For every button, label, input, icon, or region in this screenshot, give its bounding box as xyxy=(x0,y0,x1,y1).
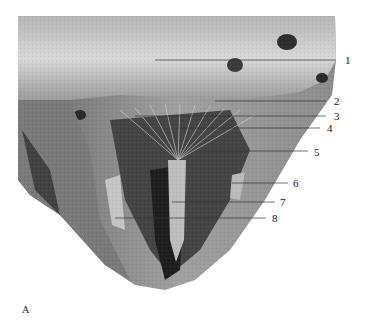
label-1: 1 xyxy=(345,54,351,66)
label-4: 4 xyxy=(327,122,333,134)
label-3: 3 xyxy=(334,110,340,122)
label-6: 6 xyxy=(293,177,299,189)
heart-specimen-photo xyxy=(0,0,367,326)
label-5: 5 xyxy=(314,146,320,158)
panel-label: A xyxy=(22,304,29,315)
label-8: 8 xyxy=(272,212,278,224)
figure-canvas: 1 2 3 4 5 6 7 8 A xyxy=(0,0,367,326)
label-7: 7 xyxy=(280,196,286,208)
label-2: 2 xyxy=(334,95,340,107)
